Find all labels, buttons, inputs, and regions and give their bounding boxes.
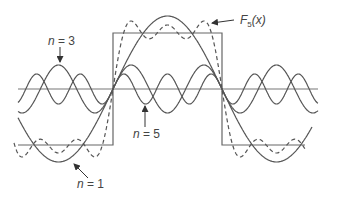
fourier-square-wave-figure [0,0,339,199]
label-n5: n = 5 [133,128,160,140]
annotation-arrows [60,20,234,178]
n1-arrow [74,164,88,178]
label-n3: n = 3 [48,35,75,47]
label-n1: n = 1 [77,178,104,190]
f5-arrow [212,20,234,23]
label-f5: F5(x) [240,14,266,29]
